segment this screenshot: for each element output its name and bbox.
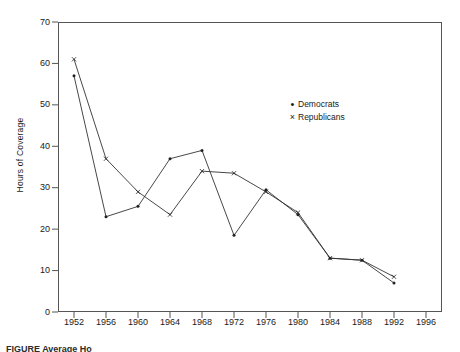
- y-tick-label: 60: [18, 59, 50, 68]
- legend-label-republicans: Republicans: [297, 111, 345, 124]
- y-tick-label: 10: [18, 266, 50, 275]
- chart-legend: • Democrats × Republicans: [288, 98, 345, 123]
- y-axis-title: Hours of Coverage: [15, 95, 25, 215]
- figure-caption: FIGURE Average Ho: [6, 344, 92, 352]
- y-tick-label: 0: [18, 308, 50, 317]
- y-tick-label: 50: [18, 100, 50, 109]
- y-tick-label: 70: [18, 18, 50, 27]
- legend-cross-marker-icon: ×: [288, 111, 297, 124]
- legend-item-republicans: × Republicans: [288, 111, 345, 124]
- legend-dot-marker-icon: •: [288, 98, 297, 111]
- legend-item-democrats: • Democrats: [288, 98, 345, 111]
- y-tick-label: 40: [18, 142, 50, 151]
- plot-area: [58, 22, 442, 312]
- y-tick-label: 30: [18, 183, 50, 192]
- figure: Hours of Coverage 010203040506070 195219…: [0, 0, 460, 352]
- x-tick-label: 1996: [406, 318, 446, 327]
- legend-label-democrats: Democrats: [297, 98, 339, 111]
- y-tick-label: 20: [18, 225, 50, 234]
